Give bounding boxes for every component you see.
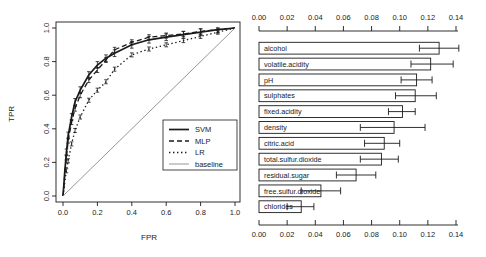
legend-label-lr: LR — [195, 148, 205, 157]
top-axis-tick-label: 0.04 — [308, 13, 323, 22]
top-axis-tick-label: 0.00 — [252, 13, 267, 22]
bottom-axis-tick-label: 0.04 — [308, 230, 323, 239]
bar-pH — [259, 74, 417, 86]
top-axis-tick-label: 0.10 — [392, 13, 407, 22]
top-axis-tick-label: 0.02 — [280, 13, 295, 22]
bottom-axis-tick-label: 0.10 — [392, 230, 407, 239]
bar-label-alcohol: alcohol — [264, 44, 287, 53]
roc-y-tick-label: 0.8 — [42, 56, 51, 66]
bar-label-residual.sugar: residual.sugar — [264, 171, 310, 180]
bottom-axis-tick-label: 0.02 — [280, 230, 295, 239]
bar-label-fixed.acidity: fixed.acidity — [264, 107, 302, 116]
roc-x-tick-label: 1.0 — [230, 208, 240, 217]
bar-label-pH: pH — [264, 76, 273, 85]
roc-chart: 0.00.20.40.60.81.00.00.20.40.60.81.0SVMM… — [42, 22, 240, 217]
roc-y-tick-label: 0.4 — [42, 124, 51, 134]
figure-canvas: 0.00.20.40.60.81.00.00.20.40.60.81.0SVMM… — [0, 0, 486, 257]
bar-label-sulphates: sulphates — [264, 91, 295, 100]
bar-label-volatile.acidity: volatile.acidity — [264, 60, 309, 69]
bar-label-density: density — [264, 123, 287, 132]
roc-yaxis-title: TPR — [7, 106, 16, 122]
roc-x-tick-label: 0.4 — [127, 208, 137, 217]
top-axis-tick-label: 0.14 — [449, 13, 464, 22]
top-axis-tick-label: 0.08 — [364, 13, 379, 22]
bottom-axis-tick-label: 0.00 — [252, 230, 267, 239]
roc-curve-baseline — [63, 28, 235, 196]
top-axis-tick-label: 0.06 — [336, 13, 351, 22]
roc-y-tick-label: 0.6 — [42, 90, 51, 100]
bottom-axis-tick-label: 0.06 — [336, 230, 351, 239]
roc-y-tick-label: 0.0 — [42, 191, 51, 201]
bar-label-citric.acid: citric.acid — [264, 139, 294, 148]
bottom-axis-tick-label: 0.08 — [364, 230, 379, 239]
top-axis-tick-label: 0.12 — [421, 13, 436, 22]
roc-x-tick-label: 0.6 — [161, 208, 171, 217]
roc-xaxis-title: FPR — [141, 233, 157, 242]
bar-label-total.sulfur.dioxide: total.sulfur.dioxide — [264, 155, 322, 164]
legend-label-svm: SVM — [195, 125, 211, 134]
roc-x-tick-label: 0.8 — [195, 208, 205, 217]
bottom-axis-tick-label: 0.12 — [421, 230, 436, 239]
roc-x-tick-label: 0.2 — [92, 208, 102, 217]
legend-label-mlp: MLP — [195, 137, 210, 146]
roc-y-tick-label: 1.0 — [42, 23, 51, 33]
roc-y-tick-label: 0.2 — [42, 157, 51, 167]
importance-chart: 0.000.020.040.060.080.100.120.140.000.02… — [252, 13, 464, 239]
two-panel-chart: 0.00.20.40.60.81.00.00.20.40.60.81.0SVMM… — [0, 0, 486, 257]
legend-label-baseline: baseline — [195, 160, 223, 169]
roc-x-tick-label: 0.0 — [58, 208, 68, 217]
bottom-axis-tick-label: 0.14 — [449, 230, 464, 239]
